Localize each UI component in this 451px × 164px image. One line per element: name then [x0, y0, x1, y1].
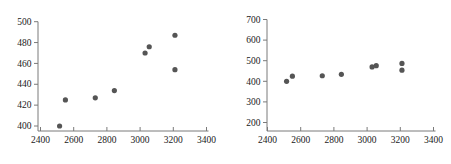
x-axis-tick-label: 2400 [258, 135, 277, 145]
data-point [172, 67, 177, 72]
y-axis-tick-label: 700 [246, 15, 261, 25]
data-point [147, 44, 152, 49]
y-axis-tick-label: 460 [17, 59, 32, 69]
y-axis-tick-label: 200 [246, 118, 261, 128]
y-axis-tick-label: 440 [17, 79, 32, 89]
x-axis-tick-label: 2800 [97, 135, 116, 145]
data-point [284, 79, 289, 84]
y-axis-tick-label: 400 [246, 77, 261, 87]
y-axis-tick-label: 600 [246, 35, 261, 45]
x-axis-tick-label: 3400 [424, 135, 443, 145]
data-point [339, 72, 344, 77]
right-plot-svg: 2003004005006007002400260028003000320034… [225, 0, 451, 164]
axis-spine [38, 22, 209, 131]
scatter-plot-left: 4004204404604805002400260028003000320034… [0, 0, 225, 164]
x-axis-tick-label: 3200 [164, 135, 183, 145]
y-axis-tick-label: 500 [246, 56, 261, 66]
x-axis-tick-label: 3000 [358, 135, 377, 145]
x-axis-tick-label: 3400 [197, 135, 216, 145]
data-point [112, 88, 117, 93]
data-point [320, 73, 325, 78]
data-point [290, 74, 295, 79]
data-point [399, 61, 404, 66]
y-axis-tick-label: 420 [17, 100, 32, 110]
data-point [399, 68, 404, 73]
x-axis-tick-label: 2400 [31, 135, 50, 145]
data-point [93, 95, 98, 100]
y-axis-tick-label: 300 [246, 97, 261, 107]
data-point [57, 123, 62, 128]
x-axis-tick-label: 3200 [391, 135, 410, 145]
data-point [374, 63, 379, 68]
data-point [142, 50, 147, 55]
x-axis-tick-label: 2600 [64, 135, 83, 145]
y-axis-tick-label: 500 [17, 17, 32, 27]
scatter-plot-right: 2003004005006007002400260028003000320034… [225, 0, 451, 164]
data-point [172, 33, 177, 38]
x-axis-tick-label: 2800 [324, 135, 343, 145]
x-axis-tick-label: 3000 [131, 135, 150, 145]
dual-scatter-figure: 4004204404604805002400260028003000320034… [0, 0, 451, 164]
data-point [63, 97, 68, 102]
x-axis-tick-label: 2600 [291, 135, 310, 145]
y-axis-tick-label: 480 [17, 38, 32, 48]
left-plot-svg: 4004204404604805002400260028003000320034… [0, 0, 225, 164]
y-axis-tick-label: 400 [17, 121, 32, 131]
